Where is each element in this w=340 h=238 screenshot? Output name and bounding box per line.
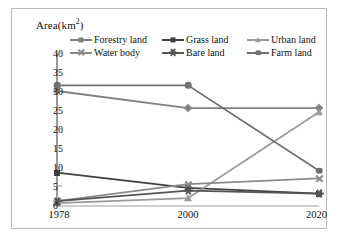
- y-axis-tick-mark: [58, 52, 62, 53]
- circle-marker-icon: [316, 168, 323, 175]
- y-axis-tick-mark: [58, 109, 62, 110]
- y-axis-tick-mark: [58, 185, 62, 186]
- legend-item-forestry-land[interactable]: Forestry land: [70, 34, 162, 45]
- legend-key: [70, 34, 92, 45]
- series-line-farm-land: [57, 85, 319, 171]
- triangle-marker-icon: [255, 37, 261, 42]
- y-axis-tick-mark: [58, 71, 62, 72]
- legend-key: [247, 34, 269, 45]
- y-axis-tick-mark: [58, 147, 62, 148]
- triangle-marker-icon: [315, 108, 323, 115]
- legend-key: [162, 34, 184, 45]
- y-axis-tick-mark: [58, 90, 62, 91]
- star-marker-icon: [315, 189, 324, 198]
- legend-item-grass-land[interactable]: Grass land: [162, 34, 247, 45]
- x-axis-tick-label: 1978: [49, 209, 70, 220]
- x-axis-tick-label: 2020: [306, 209, 327, 220]
- legend-label: Urban land: [269, 34, 316, 45]
- x-axis-tick-label: 2000: [178, 209, 199, 220]
- diamond-marker-icon: [78, 37, 83, 42]
- y-axis-title-tail: ): [80, 19, 84, 31]
- y-axis-tick-mark: [58, 128, 62, 129]
- legend-item-urban-land[interactable]: Urban land: [247, 34, 339, 45]
- plot-area: [57, 53, 319, 205]
- legend-row: Forestry landGrass landUrban land: [70, 34, 340, 47]
- square-marker-icon: [170, 37, 175, 42]
- star-marker-icon: [184, 186, 193, 195]
- x-marker-icon: [315, 174, 324, 183]
- circle-marker-icon: [185, 82, 192, 89]
- x-axis-line: [56, 205, 319, 207]
- y-axis-tick-mark: [58, 166, 62, 167]
- triangle-marker-icon: [184, 194, 192, 201]
- legend-label: Forestry land: [92, 34, 147, 45]
- y-axis-title-text: Area(km: [36, 19, 76, 31]
- y-axis-title: Area(km2): [36, 17, 83, 31]
- chart-figure: Area(km2) Forestry landGrass landUrban l…: [11, 8, 327, 229]
- legend-label: Grass land: [184, 34, 229, 45]
